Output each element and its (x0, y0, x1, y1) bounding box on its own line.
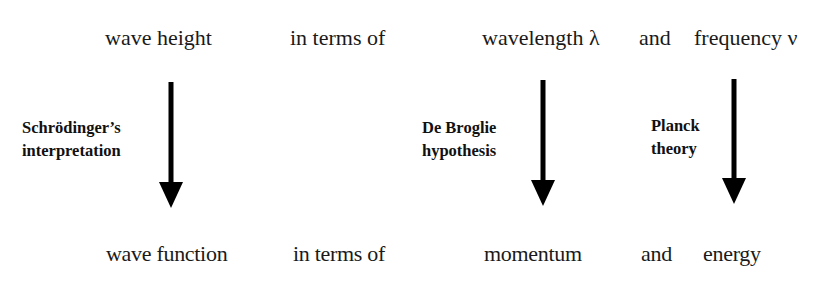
and-top-text: and (639, 27, 671, 49)
planck-label-line2: theory (651, 138, 697, 160)
in-terms-of-top-text: in terms of (290, 27, 385, 49)
down-arrow-icon (159, 82, 183, 208)
in-terms-of-bottom-text: in terms of (293, 243, 385, 265)
down-arrow-icon (722, 79, 746, 205)
de-broglie-label-line1: De Broglie (422, 117, 496, 139)
energy-text: energy (703, 243, 761, 265)
and-bottom-text: and (641, 243, 672, 265)
down-arrow-icon (531, 80, 555, 206)
planck-label-line1: Planck (651, 115, 700, 137)
momentum-text: momentum (484, 243, 582, 265)
wave-function-text: wave function (106, 243, 227, 265)
wavelength-lambda-text: wavelength λ (482, 27, 600, 49)
schrodinger-label-line1: Schrödinger’s (22, 117, 121, 139)
wave-height-text: wave height (105, 27, 212, 49)
de-broglie-label-line2: hypothesis (422, 140, 496, 162)
frequency-nu-text: frequency ν (694, 27, 797, 49)
schrodinger-label-line2: interpretation (22, 140, 121, 162)
